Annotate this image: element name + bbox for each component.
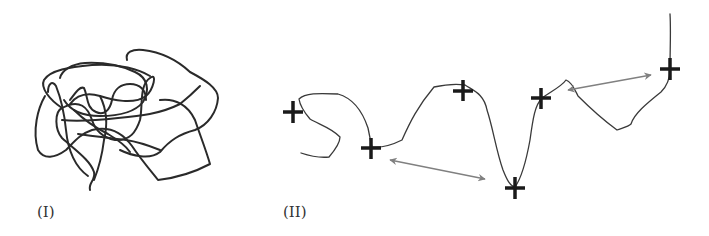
plus-marker-6 — [660, 58, 680, 80]
arrows — [390, 75, 651, 179]
double-arrow-2 — [568, 75, 651, 90]
plus-marker-5 — [531, 88, 551, 109]
untangled-curve — [299, 14, 670, 187]
double-arrow-1 — [390, 160, 485, 179]
panel-I-label: (I) — [37, 203, 55, 221]
tangled-curve — [36, 50, 218, 190]
panel-II-label: (II) — [283, 203, 307, 221]
plus-marker-2 — [361, 138, 381, 159]
diagram-canvas: (I) (II) — [0, 0, 709, 236]
plus-marker-3 — [453, 80, 473, 101]
